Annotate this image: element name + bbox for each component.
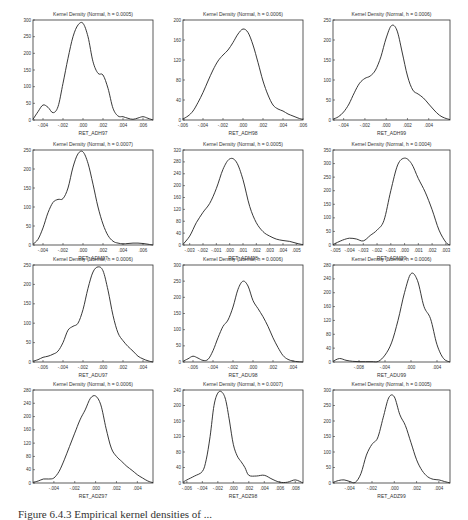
y-tick-label: 200 [173,18,181,23]
x-tick-label: -.004 [58,365,69,370]
y-tick-label: 0 [178,118,181,123]
density-plot: 050100150200250300-.004-.002.000.002.004 [313,388,456,495]
x-tick-label: -.008 [354,365,365,370]
x-tick-label: .000 [407,365,416,370]
x-tick-label: .001 [239,248,248,253]
x-axis-label: RET_ADZ97 [33,493,153,499]
y-tick-label: 100 [323,78,331,83]
x-tick-label: .002 [428,248,437,253]
y-tick-label: 50 [326,98,332,103]
x-tick-label: -.004 [49,486,60,491]
y-tick-label: 200 [23,167,31,172]
density-plot: 050100150200250300-.006-.004-.002.000.00… [163,263,309,374]
plot-frame [183,265,303,362]
x-tick-label: -.004 [345,486,356,491]
x-tick-label: .006 [139,248,148,253]
y-tick-label: 50 [26,340,32,345]
density-curve [33,267,153,362]
y-tick-label: 300 [323,161,331,166]
x-tick-label: .006 [139,123,148,128]
y-tick-label: 150 [23,186,31,191]
y-tick-label: 200 [23,414,31,419]
x-tick-label: -.006 [38,365,49,370]
figure-caption: Figure 6.4.3 Empirical kernel densities … [18,508,212,520]
y-tick-label: 150 [323,434,331,439]
x-tick-label: -.001 [211,248,222,253]
y-tick-label: 200 [323,38,331,43]
x-tick-label: .000 [225,248,234,253]
x-tick-label: .000 [239,123,248,128]
y-tick-label: 0 [28,481,31,486]
y-tick-label: 240 [173,388,181,393]
y-tick-label: 250 [23,263,31,268]
plot-frame [333,150,450,245]
x-axis-label: RET_ADZ99 [333,493,450,499]
x-tick-label: .004 [433,365,442,370]
x-axis-label: RET_ADU97 [33,372,153,378]
y-tick-label: 120 [173,434,181,439]
density-curve [183,281,303,362]
y-tick-label: 80 [326,332,332,337]
density-curve [333,273,450,362]
chart-title: Kernel Density (Normal, h = 0.0005) [183,141,303,147]
density-curve [33,22,153,120]
y-tick-label: 80 [176,450,182,455]
x-tick-label: .000 [249,365,258,370]
x-tick-label: .000 [229,486,238,491]
y-tick-label: 250 [173,279,181,284]
plot-frame [333,265,450,362]
y-tick-label: 0 [328,481,331,486]
plot-frame [33,265,153,362]
x-tick-label: .002 [119,365,128,370]
x-tick-label: -.002 [70,486,81,491]
x-tick-label: .002 [269,365,278,370]
y-tick-label: 0 [328,360,331,365]
y-tick-label: 240 [173,171,181,176]
x-tick-label: .000 [390,486,399,491]
x-tick-label: -.002 [372,248,383,253]
y-tick-label: 300 [23,18,31,23]
x-tick-label: -.001 [386,248,397,253]
y-tick-label: 160 [173,195,181,200]
density-plot: 050100150200250-.004-.002.000.002.004.00… [13,148,159,257]
x-tick-label: -.002 [360,123,371,128]
density-plot: 04080120160200240280-.008-.004.000.004 [313,263,456,374]
x-tick-label: .002 [99,123,108,128]
y-tick-label: 100 [173,327,181,332]
density-plot: 04080120160200240280-.004-.002.000.002.0… [13,388,159,495]
y-tick-label: 50 [326,229,332,234]
x-tick-label: .004 [260,486,269,491]
x-tick-label: .002 [244,486,253,491]
y-tick-label: 160 [173,419,181,424]
x-tick-label: .005 [292,248,301,253]
y-tick-label: 150 [323,58,331,63]
y-tick-label: 250 [23,148,31,153]
y-tick-label: 80 [26,454,32,459]
y-tick-label: 80 [176,78,182,83]
plot-frame [33,390,153,483]
y-tick-label: 200 [173,183,181,188]
y-tick-label: 160 [323,304,331,309]
y-tick-label: 160 [173,38,181,43]
plot-frame [33,20,153,120]
x-axis-label: RET_ADH99 [333,130,450,136]
x-tick-label: .002 [112,486,121,491]
x-tick-label: .004 [139,365,148,370]
y-tick-label: 0 [178,481,181,486]
x-tick-label: .002 [403,123,412,128]
x-tick-label: .000 [79,123,88,128]
y-tick-label: 50 [326,465,332,470]
x-tick-label: .000 [79,248,88,253]
x-tick-label: -.004 [344,248,355,253]
y-tick-label: 100 [323,450,331,455]
chart-title: Kernel Density (Normal, h = 0.0006) [333,11,450,17]
y-tick-label: 100 [23,205,31,210]
x-tick-label: -.004 [38,248,49,253]
x-tick-label: .000 [91,486,100,491]
density-curve [183,158,303,244]
density-curve [333,395,450,483]
chart-title: Kernel Density (Normal, h = 0.0005) [333,381,450,387]
y-tick-label: 100 [23,321,31,326]
density-curve [33,151,153,245]
x-tick-label: -.006 [188,365,199,370]
